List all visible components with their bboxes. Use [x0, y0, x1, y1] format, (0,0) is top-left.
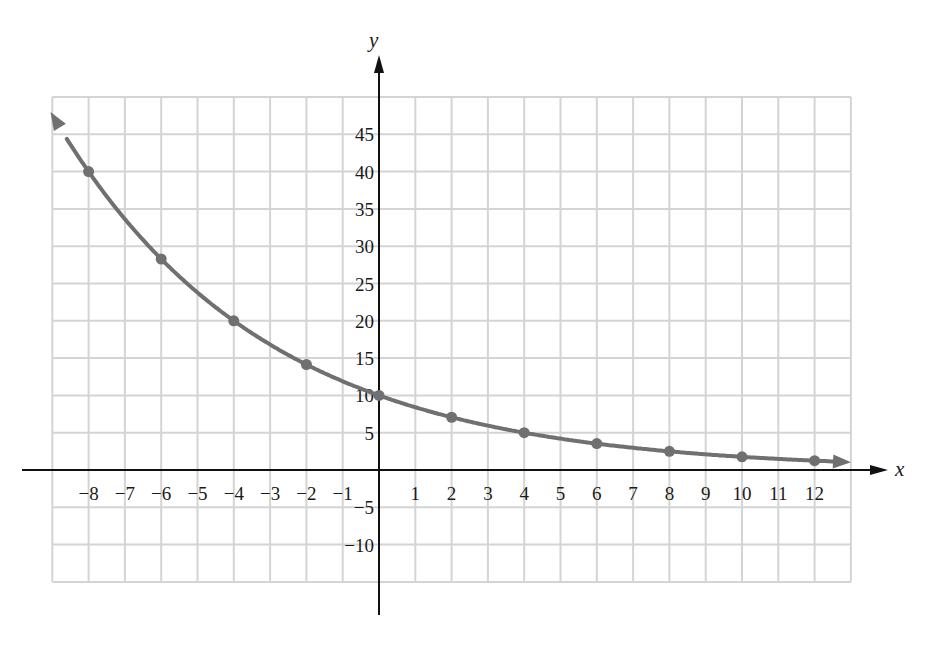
data-point — [83, 166, 94, 177]
y-axis-arrow-icon — [374, 55, 384, 73]
x-tick-label: 8 — [665, 483, 675, 504]
chart-canvas: −8−7−6−5−4−3−2−1123456789101112 45403530… — [0, 0, 937, 646]
x-tick-label: 12 — [805, 483, 824, 504]
data-point — [809, 455, 820, 466]
x-tick-label: −4 — [224, 483, 245, 504]
data-point — [591, 438, 602, 449]
curve-arrow-right-icon — [833, 454, 851, 468]
y-tick-label: 15 — [355, 348, 374, 369]
x-tick-label: −5 — [187, 483, 207, 504]
x-tick-label: 11 — [769, 483, 787, 504]
x-tick-label: 3 — [483, 483, 493, 504]
data-point — [301, 359, 312, 370]
y-tick-label: 25 — [355, 274, 374, 295]
x-tick-label: −8 — [78, 483, 98, 504]
x-tick-label: −1 — [333, 483, 353, 504]
x-tick-label: −2 — [296, 483, 316, 504]
x-tick-label: 10 — [733, 483, 752, 504]
x-tick-label: −6 — [151, 483, 171, 504]
x-tick-label: 6 — [592, 483, 602, 504]
x-tick-labels: −8−7−6−5−4−3−2−1123456789101112 — [78, 483, 824, 504]
x-tick-label: 2 — [447, 483, 457, 504]
x-tick-label: −7 — [115, 483, 135, 504]
x-tick-label: 7 — [628, 483, 638, 504]
x-tick-label: 4 — [519, 483, 529, 504]
data-point — [156, 253, 167, 264]
data-point — [737, 451, 748, 462]
y-tick-label: 45 — [355, 124, 374, 145]
data-point — [519, 427, 530, 438]
y-tick-label: 20 — [355, 311, 374, 332]
data-point — [374, 390, 385, 401]
axes — [22, 55, 888, 615]
data-point — [664, 446, 675, 457]
y-tick-label: −10 — [344, 535, 374, 556]
data-point — [446, 412, 457, 423]
y-tick-label: 40 — [355, 162, 374, 183]
x-tick-label: 9 — [701, 483, 711, 504]
x-axis-arrow-icon — [870, 465, 888, 475]
x-tick-label: −3 — [260, 483, 280, 504]
x-tick-label: 5 — [556, 483, 566, 504]
grid — [52, 97, 851, 582]
x-tick-label: 1 — [411, 483, 421, 504]
y-tick-label: 5 — [365, 423, 375, 444]
y-axis-label: y — [367, 28, 379, 52]
y-tick-label: 35 — [355, 199, 374, 220]
x-axis-label: x — [894, 457, 905, 481]
y-tick-label: 30 — [355, 236, 374, 257]
data-point — [228, 315, 239, 326]
y-tick-label: −5 — [354, 497, 374, 518]
